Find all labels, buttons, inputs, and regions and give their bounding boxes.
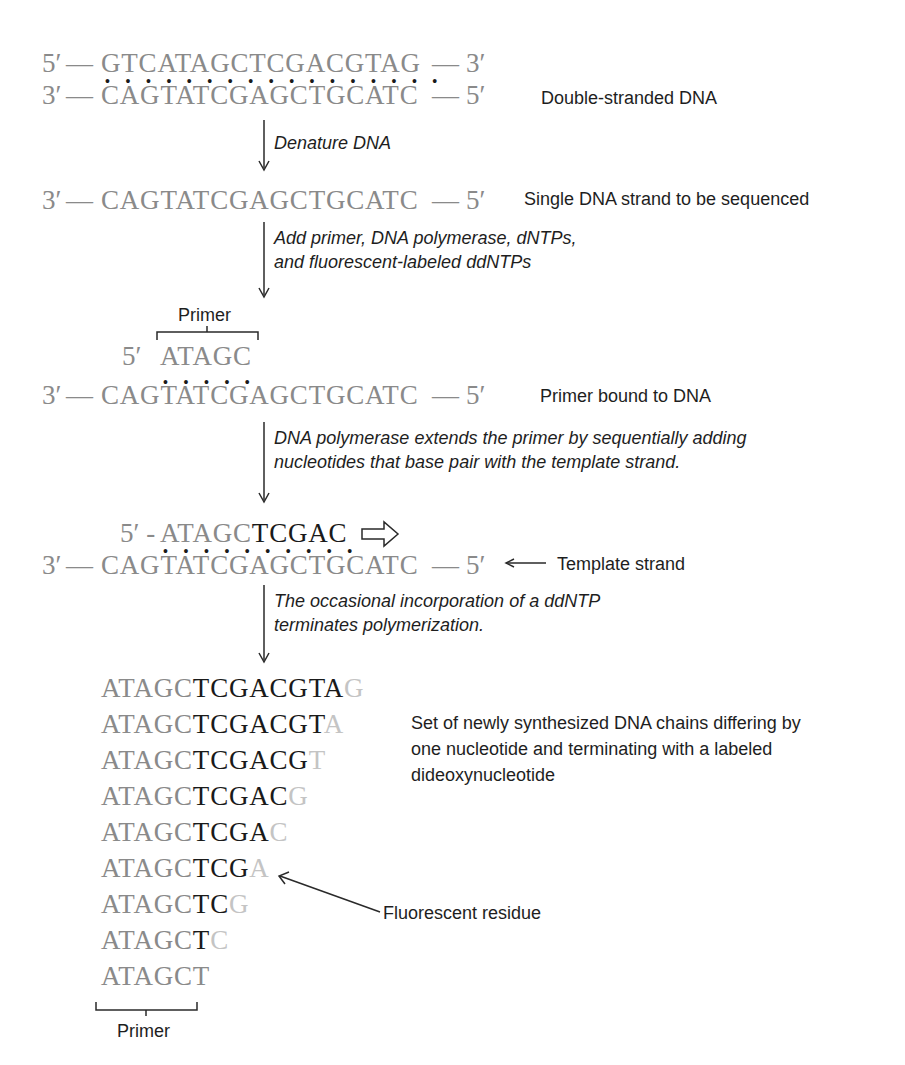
five-prime-end: 5′ <box>466 552 485 579</box>
chain-terminal: G <box>288 781 308 811</box>
chain-terminal: G <box>344 673 364 703</box>
set-label-line3: dideoxynucleotide <box>411 764 555 787</box>
strand-dash: — <box>432 552 459 579</box>
chain-list: ATAGCTCGACGTAG ATAGCTCGACGTA ATAGCTCGACG… <box>101 675 364 999</box>
chain-row: ATAGCTCGACGTA <box>101 711 364 747</box>
chain-row: ATAGCTCGAC <box>101 819 364 855</box>
five-prime-end: 5′ <box>466 382 485 409</box>
chain-primer: ATAGC <box>101 889 193 919</box>
chain-extension: TCG <box>193 853 249 883</box>
primer-bound-label: Primer bound to DNA <box>540 385 711 408</box>
chain-extension: TCGA <box>193 817 270 847</box>
fluorescent-residue-label: Fluorescent residue <box>383 902 541 925</box>
step-terminate-line2: terminates polymerization. <box>274 614 484 637</box>
set-label-line1: Set of newly synthesized DNA chains diff… <box>411 712 801 735</box>
chain-row: ATAGCTCG <box>101 891 364 927</box>
step-extend-line2: nucleotides that base pair with the temp… <box>274 451 680 474</box>
three-prime-end: 3′ <box>42 552 61 579</box>
chain-terminal: T <box>309 745 326 775</box>
primer-label: Primer <box>178 304 231 327</box>
chain-primer: ATAGC <box>101 817 193 847</box>
chain-primer: ATAGC <box>101 709 193 739</box>
single-strand-sequence: CAGTATCGAGCTGCATC <box>101 187 418 214</box>
template-sequence: CAGTATCGAGCTGCATC <box>101 382 418 409</box>
chain-terminal: A <box>249 853 269 883</box>
strand-dash: — <box>66 552 93 579</box>
three-prime-end: 3′ <box>42 382 61 409</box>
chain-primer: ATAGC <box>101 925 193 955</box>
step-terminate-line1: The occasional incorporation of a ddNTP <box>274 590 600 613</box>
strand-dash: — <box>432 382 459 409</box>
chain-extension: TCGACGTA <box>193 673 344 703</box>
chain-primer: ATAGC <box>101 745 193 775</box>
primer-five-prime: 5′ <box>122 343 141 370</box>
chain-row: ATAGCTCGA <box>101 855 364 891</box>
chain-extension: TCGAC <box>193 781 289 811</box>
primer-label-bottom: Primer <box>117 1020 170 1043</box>
single-strand-label: Single DNA strand to be sequenced <box>524 188 809 211</box>
step-add-primer-line1: Add primer, DNA polymerase, dNTPs, <box>274 227 576 250</box>
step-denature: Denature DNA <box>274 132 391 155</box>
chain-primer: ATAGC <box>101 781 193 811</box>
chain-row: ATAGCT <box>101 963 364 999</box>
chain-terminal: C <box>270 817 289 847</box>
strand-dash: — <box>432 187 459 214</box>
set-label-line2: one nucleotide and terminating with a la… <box>411 738 772 761</box>
chain-extension: TC <box>193 889 229 919</box>
chain-row: ATAGCTCGACG <box>101 783 364 819</box>
chain-row: ATAGCTCGACGTAG <box>101 675 364 711</box>
strand-dash: — <box>66 187 93 214</box>
template-strand-label: Template strand <box>557 553 685 576</box>
chain-extension: T <box>193 925 210 955</box>
chain-terminal: T <box>193 961 210 991</box>
chain-row: ATAGCTC <box>101 927 364 963</box>
three-prime-end: 3′ <box>42 187 61 214</box>
five-prime-end: 5′ <box>466 187 485 214</box>
primer-sequence: ATAGC <box>160 343 252 370</box>
chain-terminal: G <box>229 889 249 919</box>
chain-extension: TCGACG <box>193 745 309 775</box>
chain-primer: ATAGC <box>101 961 193 991</box>
chain-primer: ATAGC <box>101 673 193 703</box>
step-add-primer-line2: and fluorescent-labeled ddNTPs <box>274 251 531 274</box>
chain-terminal: C <box>210 925 229 955</box>
chain-terminal: A <box>324 709 344 739</box>
chain-row: ATAGCTCGACGT <box>101 747 364 783</box>
step-extend-line1: DNA polymerase extends the primer by seq… <box>274 427 747 450</box>
template-sequence: CAGTATCGAGCTGCATC <box>101 552 418 579</box>
growing-five-prime: 5′ - <box>120 520 155 547</box>
strand-dash: — <box>66 382 93 409</box>
chain-extension: TCGACGT <box>193 709 324 739</box>
chain-primer: ATAGC <box>101 853 193 883</box>
